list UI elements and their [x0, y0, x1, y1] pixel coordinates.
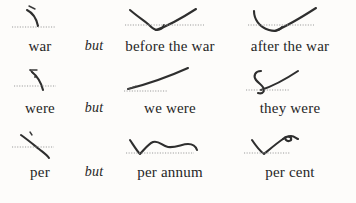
phrase-cell: after the war — [228, 0, 352, 64]
phrase-cell: per cent — [228, 126, 352, 190]
phrase-label: before the war — [112, 36, 228, 56]
table-row: were but we were th — [0, 62, 356, 126]
phrase-label: they were — [228, 98, 352, 118]
base-word-label: were — [4, 98, 76, 118]
base-word-cell: per — [4, 126, 76, 190]
shorthand-table: war but before the war — [0, 0, 356, 203]
base-word-label: war — [4, 36, 76, 56]
war-outline — [4, 0, 76, 38]
conjunction-cell: but — [76, 62, 112, 126]
conjunction-cell: but — [76, 126, 112, 190]
were-outline — [4, 62, 76, 100]
phrase-cell: before the war — [112, 0, 228, 64]
per-outline — [4, 126, 76, 164]
per-annum-outline — [112, 126, 228, 164]
base-word-label: per — [4, 162, 76, 182]
conjunction-cell: but — [76, 0, 112, 64]
conjunction-label: but — [76, 162, 112, 182]
phrase-label: we were — [112, 98, 228, 118]
after-the-war-outline — [228, 0, 352, 38]
base-word-cell: war — [4, 0, 76, 64]
phrase-cell: they were — [228, 62, 352, 126]
conjunction-label: but — [76, 36, 112, 56]
before-the-war-outline — [112, 0, 228, 38]
we-were-outline — [112, 62, 228, 100]
phrase-label: per cent — [228, 162, 352, 182]
phrase-cell: we were — [112, 62, 228, 126]
base-word-cell: were — [4, 62, 76, 126]
conjunction-label: but — [76, 98, 112, 118]
phrase-label: per annum — [112, 162, 228, 182]
phrase-cell: per annum — [112, 126, 228, 190]
they-were-outline — [228, 62, 352, 100]
per-cent-outline — [228, 126, 352, 164]
table-row: per but per annum per cent — [0, 126, 356, 190]
table-row: war but before the war — [0, 0, 356, 64]
phrase-label: after the war — [228, 36, 352, 56]
